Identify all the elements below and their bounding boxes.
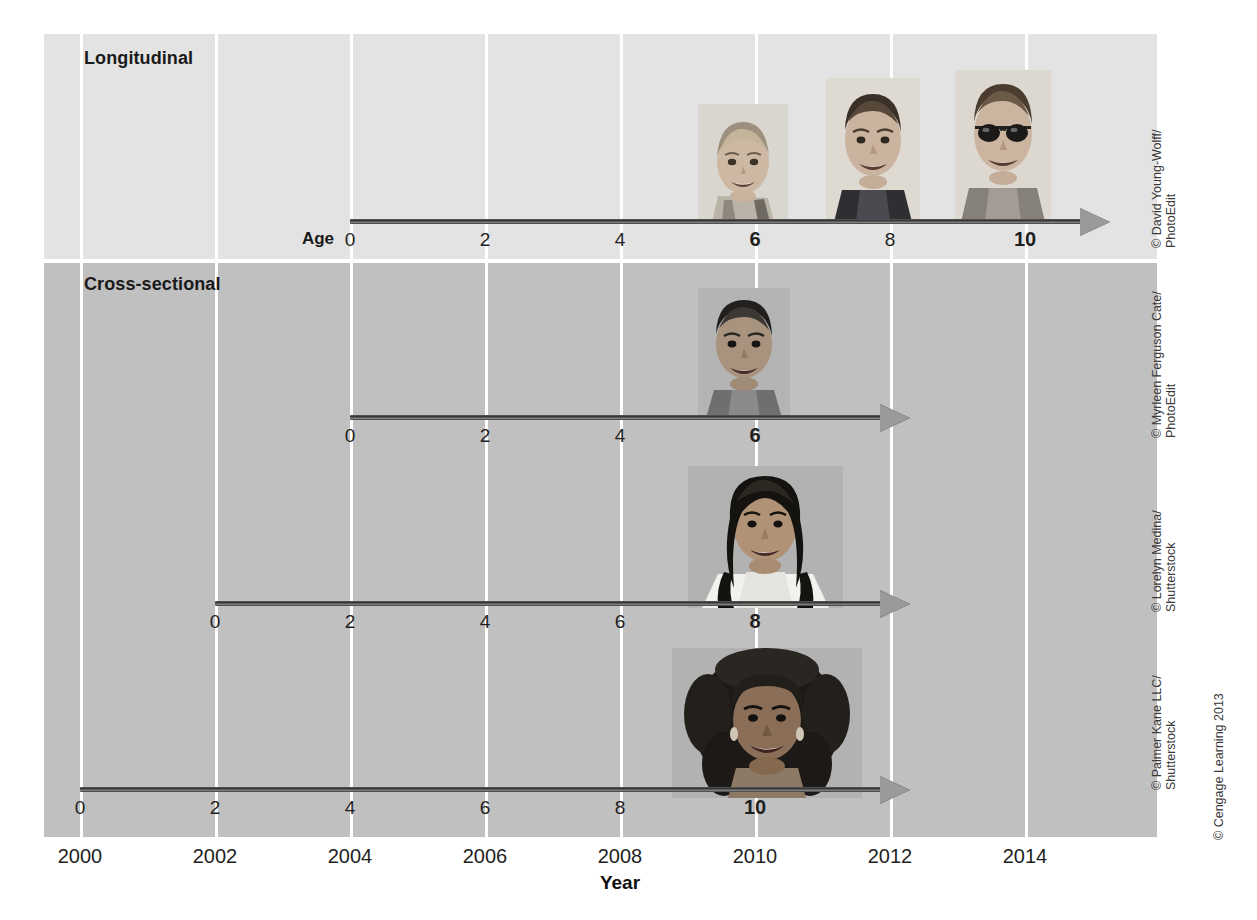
photo-boy-age-8	[826, 78, 920, 222]
gridline	[485, 34, 488, 259]
tick-c2-2: 2	[345, 611, 356, 633]
year-label-2006: 2006	[463, 845, 508, 868]
tick-c2-4: 4	[480, 611, 491, 633]
tick-age-6: 6	[749, 228, 760, 251]
tick-age-10: 10	[1014, 228, 1036, 251]
gridline	[80, 34, 83, 259]
tick-c3-10: 10	[744, 796, 766, 819]
gridline	[485, 263, 488, 837]
tick-c3-4: 4	[345, 797, 356, 819]
tick-c1-6: 6	[749, 424, 760, 447]
tick-age-8: 8	[885, 229, 896, 251]
photo-credit-1: © David Young-Wolff/ PhotoEdit	[1150, 129, 1179, 248]
tick-age-2: 2	[480, 229, 491, 251]
photo-boy-age-10	[955, 70, 1051, 222]
year-axis-title: Year	[600, 872, 640, 894]
photo-credit-2: © Myrleen Ferguson Cate/ PhotoEdit	[1150, 291, 1179, 438]
photo-boy-cohort-1	[698, 288, 790, 418]
year-label-2004: 2004	[328, 845, 373, 868]
tick-age-4: 4	[615, 229, 626, 251]
photo-girl-cohort-3	[672, 648, 862, 798]
year-label-2008: 2008	[598, 845, 643, 868]
gridline	[350, 263, 353, 837]
axis-arrow-icon	[880, 776, 910, 804]
tick-c3-0: 0	[75, 797, 86, 819]
tick-c2-6: 6	[615, 611, 626, 633]
axis-line	[80, 787, 886, 792]
year-label-2000: 2000	[58, 845, 103, 868]
figure-longitudinal-cross-sectional: Longitudinal	[0, 0, 1257, 920]
tick-c2-0: 0	[210, 611, 221, 633]
gridline	[80, 263, 83, 837]
tick-c3-8: 8	[615, 797, 626, 819]
tick-c3-2: 2	[210, 797, 221, 819]
photo-boy-age-6	[698, 104, 788, 222]
tick-c3-6: 6	[480, 797, 491, 819]
gridline	[1025, 263, 1028, 837]
publisher-credit: © Cengage Learning 2013	[1212, 693, 1226, 840]
axis-line	[350, 415, 886, 420]
tick-c1-4: 4	[615, 425, 626, 447]
year-label-2002: 2002	[193, 845, 238, 868]
axis-line	[215, 601, 886, 606]
longitudinal-band-title: Longitudinal	[84, 48, 193, 69]
cross-sectional-band-title: Cross-sectional	[84, 274, 221, 295]
cross-sectional-band	[44, 263, 1157, 837]
axis-arrow-icon	[880, 590, 910, 618]
photo-girl-cohort-2	[688, 466, 843, 608]
tick-c1-2: 2	[480, 425, 491, 447]
axis-arrow-icon	[1080, 208, 1110, 236]
gridline	[620, 34, 623, 259]
year-label-2014: 2014	[1003, 845, 1048, 868]
photo-credit-3: © Lorelyn Medina/ Shutterstock	[1150, 510, 1179, 612]
tick-c1-0: 0	[345, 425, 356, 447]
gridline	[890, 263, 893, 837]
gridline	[620, 263, 623, 837]
axis-arrow-icon	[880, 404, 910, 432]
gridline	[350, 34, 353, 259]
gridline	[215, 34, 218, 259]
tick-c2-8: 8	[749, 610, 760, 633]
axis-line	[350, 219, 1086, 224]
year-label-2012: 2012	[868, 845, 913, 868]
year-label-2010: 2010	[733, 845, 778, 868]
axis-label-age: Age	[302, 229, 334, 249]
tick-age-0: 0	[345, 229, 356, 251]
photo-credit-4: © Palmer Kane LLC/ Shutterstock	[1150, 675, 1179, 790]
gridline	[215, 263, 218, 837]
